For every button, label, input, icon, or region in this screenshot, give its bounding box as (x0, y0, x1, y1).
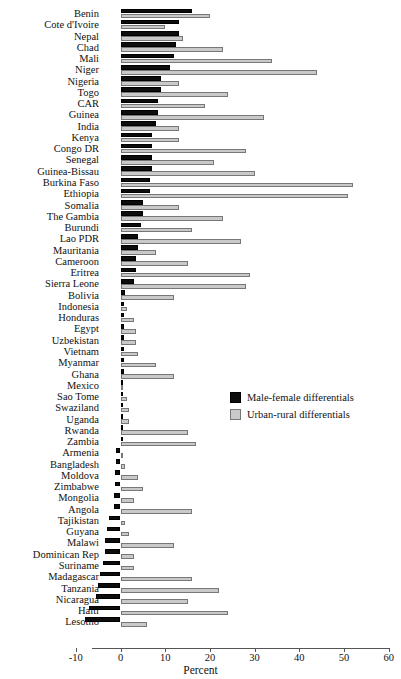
chart-row: Dominican Rep (0, 549, 401, 560)
male-female-bar (121, 200, 143, 205)
male-female-bar (121, 76, 161, 81)
row-bars (0, 121, 401, 132)
row-bars (0, 594, 401, 605)
chart-row: Zimbabwe (0, 481, 401, 492)
male-female-bar (121, 302, 125, 307)
urban-rural-bar (121, 385, 123, 390)
row-bars (0, 42, 401, 53)
male-female-bar (121, 335, 124, 340)
chart-row: Egypt (0, 323, 401, 334)
row-bars (0, 31, 401, 42)
urban-rural-bar (121, 183, 353, 188)
chart-row: Rwanda (0, 425, 401, 436)
male-female-bar (121, 245, 139, 250)
chart-row: Lao PDR (0, 233, 401, 244)
male-female-bar (121, 144, 152, 149)
chart-row: Cote d'Ivoire (0, 19, 401, 30)
male-female-bar (85, 617, 121, 622)
row-bars (0, 154, 401, 165)
chart-row: India (0, 121, 401, 132)
urban-rural-bar (121, 566, 134, 571)
row-bars (0, 188, 401, 199)
row-bars (0, 583, 401, 594)
chart-row: Armenia (0, 447, 401, 458)
chart-row: Congo DR (0, 143, 401, 154)
male-female-bar (121, 9, 193, 14)
urban-rural-bar (121, 442, 197, 447)
urban-rural-bar (121, 340, 137, 345)
urban-rural-bar (121, 149, 246, 154)
male-female-bar (121, 211, 143, 216)
x-tick-label: 60 (369, 652, 401, 663)
chart-row: Burundi (0, 222, 401, 233)
chart-row: Somalia (0, 200, 401, 211)
male-female-bar (100, 572, 120, 577)
x-tick-label: 40 (279, 652, 319, 663)
row-bars (0, 290, 401, 301)
legend-label-male-female: Male-female differentials (247, 390, 354, 405)
urban-rural-bar (121, 374, 175, 379)
male-female-bar (121, 54, 175, 59)
urban-rural-bar (121, 295, 175, 300)
urban-rural-bar (121, 81, 179, 86)
chart-row: The Gambia (0, 211, 401, 222)
male-female-bar (121, 223, 141, 228)
urban-rural-bar (121, 588, 219, 593)
urban-rural-bar (121, 464, 125, 469)
urban-rural-bar (121, 284, 246, 289)
chart-row: Eritrea (0, 267, 401, 278)
chart-row: Indonesia (0, 301, 401, 312)
chart-row: Suriname (0, 560, 401, 571)
male-female-bar (121, 189, 150, 194)
row-bars (0, 64, 401, 75)
row-bars (0, 335, 401, 346)
row-bars (0, 357, 401, 368)
chart-row: Madagascar (0, 571, 401, 582)
male-female-bar (121, 380, 123, 385)
male-female-bar (109, 516, 120, 521)
row-bars (0, 537, 401, 548)
row-bars (0, 256, 401, 267)
row-bars (0, 245, 401, 256)
chart-row: Mali (0, 53, 401, 64)
male-female-bar (121, 347, 124, 352)
row-bars (0, 312, 401, 323)
chart-legend: Male-female differentials Urban-rural di… (230, 390, 354, 424)
row-bars (0, 481, 401, 492)
chart-row: Ghana (0, 369, 401, 380)
male-female-bar (121, 279, 134, 284)
chart-row: Bolivia (0, 290, 401, 301)
row-bars (0, 211, 401, 222)
chart-row: Honduras (0, 312, 401, 323)
chart-row: Cameroon (0, 256, 401, 267)
urban-rural-bar (121, 194, 349, 199)
urban-rural-bar (121, 205, 179, 210)
row-bars (0, 267, 401, 278)
male-female-bar (116, 459, 120, 464)
legend-label-urban-rural: Urban-rural differentials (247, 407, 350, 422)
chart-row: Nepal (0, 31, 401, 42)
male-female-bar (121, 65, 170, 70)
x-axis-title: Percent (0, 664, 401, 676)
male-female-bar (103, 561, 121, 566)
male-female-swatch (230, 392, 241, 403)
chart-row: Moldova (0, 470, 401, 481)
chart-row: Nigeria (0, 76, 401, 87)
male-female-bar (114, 504, 121, 509)
chart-row: Vietnam (0, 346, 401, 357)
legend-item-male-female: Male-female differentials (230, 390, 354, 405)
male-female-bar (98, 583, 120, 588)
chart-row: Tajikistan (0, 515, 401, 526)
bar-rows: BeninCote d'IvoireNepalChadMaliNigerNige… (0, 8, 401, 628)
row-bars (0, 526, 401, 537)
row-bars (0, 346, 401, 357)
male-female-bar (121, 31, 179, 36)
male-female-bar (121, 121, 157, 126)
male-female-bar (105, 538, 121, 543)
row-bars (0, 76, 401, 87)
row-bars (0, 200, 401, 211)
chart-row: Mauritania (0, 245, 401, 256)
male-female-bar (121, 256, 137, 261)
urban-rural-bar (121, 160, 215, 165)
row-bars (0, 222, 401, 233)
